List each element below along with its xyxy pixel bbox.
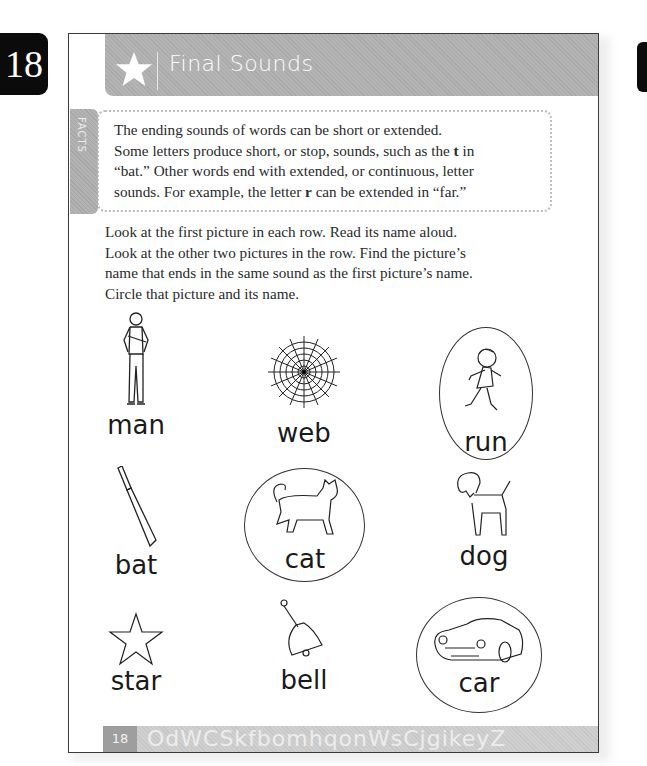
picture-bell[interactable]: bell	[249, 599, 359, 695]
page-title: Final Sounds	[169, 51, 313, 76]
word-run: run	[441, 427, 531, 457]
facts-line: “bat.” Other words end with extended, or…	[114, 161, 540, 182]
running-child-icon	[461, 346, 511, 421]
page-number-tab: 18	[0, 33, 48, 95]
picture-cat[interactable]: cat	[259, 476, 351, 574]
word-star: star	[91, 666, 181, 696]
instruction-line: Circle that picture and its name.	[105, 284, 575, 305]
facts-tab: FACTS	[70, 109, 98, 214]
worksheet-page: Final Sounds FACTS The ending sounds of …	[68, 33, 599, 753]
star-icon	[115, 50, 153, 88]
facts-box: The ending sounds of words can be short …	[97, 110, 552, 212]
facts-letter-r: r	[305, 183, 312, 200]
picture-web[interactable]: web	[249, 334, 359, 448]
picture-man[interactable]: man	[91, 310, 181, 440]
next-page-tab	[637, 42, 647, 92]
spider-web-icon	[266, 334, 342, 410]
word-bell: bell	[249, 665, 359, 695]
facts-text: sounds. For example, the letter	[114, 183, 305, 200]
facts-line: sounds. For example, the letter r can be…	[114, 182, 540, 203]
man-icon	[116, 310, 156, 410]
cricket-bat-icon	[114, 466, 158, 550]
dog-icon	[452, 469, 516, 541]
facts-tab-label: FACTS	[76, 117, 87, 153]
banner-divider	[157, 52, 158, 90]
word-web: web	[249, 418, 359, 448]
cat-icon	[267, 476, 343, 540]
picture-car[interactable]: car	[429, 614, 529, 698]
word-cat: cat	[259, 544, 351, 574]
title-banner: Final Sounds	[105, 34, 598, 96]
footer-strip: 18 OdWCSkfbomhqonWsCjgikeyZ	[103, 726, 598, 752]
word-dog: dog	[439, 541, 529, 571]
facts-text: in	[459, 142, 475, 159]
word-bat: bat	[91, 550, 181, 580]
word-man: man	[91, 410, 181, 440]
picture-bat[interactable]: bat	[91, 466, 181, 580]
facts-text: can be extended in “far.”	[312, 183, 466, 200]
facts-line: The ending sounds of words can be short …	[114, 120, 540, 141]
decorative-letters: OdWCSkfbomhqonWsCjgikeyZ	[147, 726, 506, 752]
star-outline-icon	[108, 612, 164, 666]
facts-text: Some letters produce short, or stop, sou…	[114, 142, 454, 159]
instruction-line: name that ends in the same sound as the …	[105, 263, 575, 284]
word-car: car	[429, 668, 529, 698]
picture-star[interactable]: star	[91, 612, 181, 696]
bell-icon	[274, 599, 334, 665]
facts-line: Some letters produce short, or stop, sou…	[114, 141, 540, 162]
picture-run[interactable]: run	[441, 346, 531, 457]
instruction-line: Look at the first picture in each row. R…	[105, 222, 575, 243]
picture-dog[interactable]: dog	[439, 469, 529, 571]
instruction-line: Look at the other two pictures in the ro…	[105, 243, 575, 264]
car-icon	[431, 614, 527, 666]
instructions: Look at the first picture in each row. R…	[105, 222, 575, 304]
footer-page-number: 18	[103, 726, 137, 752]
